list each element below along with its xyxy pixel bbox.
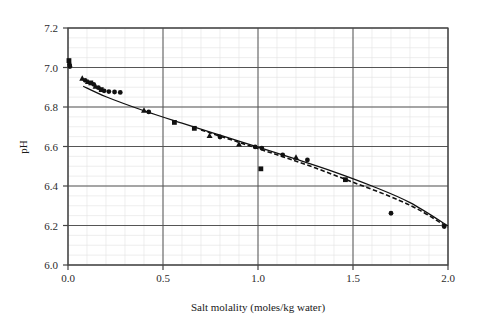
data-point-circle bbox=[280, 152, 285, 157]
data-point-circle bbox=[442, 224, 447, 229]
y-tick-label: 6.0 bbox=[44, 259, 58, 271]
data-point-circle bbox=[259, 146, 264, 151]
chart-figure: 0.00.51.01.52.0 6.06.26.46.66.87.07.2 Sa… bbox=[0, 0, 479, 325]
data-point-circle bbox=[118, 90, 123, 95]
data-point-square bbox=[192, 126, 197, 131]
x-tick-label: 0.5 bbox=[156, 272, 170, 284]
data-point-circle bbox=[389, 211, 394, 216]
data-point-circle bbox=[102, 88, 107, 93]
data-point-circle bbox=[253, 145, 258, 150]
ph-vs-salt-molality-chart: 0.00.51.01.52.0 6.06.26.46.66.87.07.2 Sa… bbox=[0, 0, 479, 325]
data-point-circle bbox=[146, 110, 151, 115]
data-point-circle bbox=[106, 89, 111, 94]
y-tick-label: 7.0 bbox=[44, 62, 58, 74]
x-axis-title: Salt molality (moles/kg water) bbox=[191, 301, 325, 314]
y-axis-title: pH bbox=[17, 140, 29, 154]
data-point-circle bbox=[112, 90, 117, 95]
y-tick-label: 6.8 bbox=[44, 101, 58, 113]
data-point-square bbox=[258, 166, 263, 171]
data-point-circle bbox=[218, 135, 223, 140]
data-point-circle bbox=[68, 64, 73, 69]
x-tick-label: 1.5 bbox=[346, 272, 360, 284]
y-tick-label: 6.6 bbox=[44, 141, 58, 153]
x-tick-label: 1.0 bbox=[251, 272, 265, 284]
x-tick-label: 2.0 bbox=[441, 272, 455, 284]
data-point-square bbox=[343, 177, 348, 182]
data-point-square bbox=[172, 120, 177, 125]
y-tick-label: 7.2 bbox=[44, 22, 58, 34]
data-point-circle bbox=[305, 158, 310, 163]
x-tick-label: 0.0 bbox=[61, 272, 75, 284]
y-tick-label: 6.4 bbox=[44, 180, 58, 192]
y-tick-label: 6.2 bbox=[44, 220, 58, 232]
